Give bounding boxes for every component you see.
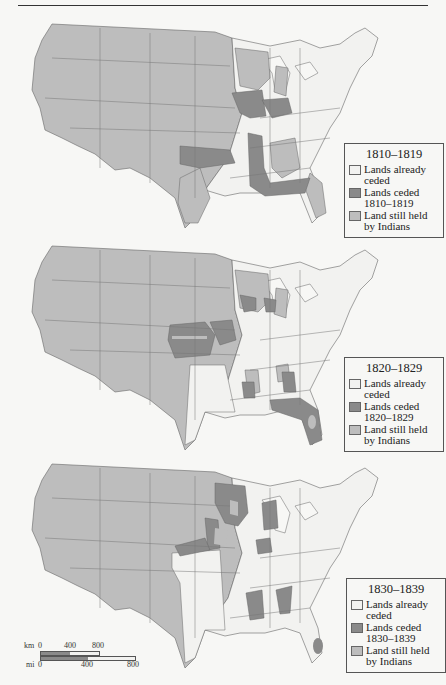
legend-item-already-ceded: Lands already ceded	[349, 164, 439, 186]
scale-mi-tick-0: 0	[38, 660, 42, 669]
swatch-still-held	[351, 646, 363, 656]
map-panel-1830-1839: 1830–1839 Lands already ceded Lands cede…	[0, 458, 446, 685]
legend-item-still-held: Land still held by Indians	[351, 645, 441, 667]
scale-mi-tick-400: 400	[81, 660, 93, 669]
top-rule	[18, 5, 428, 6]
legend-title: 1830–1839	[351, 582, 441, 596]
legend: 1810–1819 Lands already ceded Lands cede…	[344, 143, 444, 238]
legend: 1830–1839 Lands already ceded Lands cede…	[346, 578, 446, 673]
legend-label: Land still held by Indians	[364, 424, 428, 446]
scale-mi-label: mi	[26, 660, 34, 669]
scale-bar: km 0 400 800 mi 0 400 800	[24, 641, 144, 671]
legend-item-still-held: Land still held by Indians	[349, 210, 439, 232]
scale-km-tick-400: 400	[64, 641, 76, 650]
legend-title: 1820–1829	[349, 361, 439, 375]
swatch-still-held	[349, 211, 361, 221]
swatch-already-ceded	[349, 379, 361, 389]
legend-title: 1810–1819	[349, 147, 439, 161]
legend-label: Lands already ceded	[364, 164, 426, 186]
scale-mi-tick-800: 800	[127, 660, 139, 669]
legend-label: Lands already ceded	[366, 599, 428, 621]
swatch-still-held	[349, 425, 361, 435]
legend-item-ceded-in-period: Lands ceded 1830–1839	[351, 622, 441, 644]
legend-label: Land still held by Indians	[366, 645, 430, 667]
swatch-ceded-in-period	[351, 623, 363, 633]
legend-label: Lands ceded 1830–1839	[366, 622, 421, 644]
scale-km-tick-800: 800	[92, 641, 104, 650]
scale-km-label: km	[24, 641, 34, 650]
map-panel-1820-1829: 1820–1829 Lands already ceded Lands cede…	[0, 240, 446, 460]
legend-label: Lands already ceded	[364, 378, 426, 400]
map-panel-1810-1819: 1810–1819 Lands already ceded Lands cede…	[0, 18, 446, 238]
legend-label: Land still held by Indians	[364, 210, 428, 232]
legend-label: Lands ceded 1820–1829	[364, 401, 419, 423]
swatch-ceded-in-period	[349, 402, 361, 412]
legend: 1820–1829 Lands already ceded Lands cede…	[344, 357, 444, 452]
legend-item-ceded-in-period: Lands ceded 1820–1829	[349, 401, 439, 423]
legend-item-already-ceded: Lands already ceded	[351, 599, 441, 621]
scale-km-tick-0: 0	[38, 641, 42, 650]
swatch-already-ceded	[351, 600, 363, 610]
swatch-ceded-in-period	[349, 188, 361, 198]
legend-label: Lands ceded 1810–1819	[364, 187, 419, 209]
legend-item-already-ceded: Lands already ceded	[349, 378, 439, 400]
legend-item-still-held: Land still held by Indians	[349, 424, 439, 446]
legend-item-ceded-in-period: Lands ceded 1810–1819	[349, 187, 439, 209]
swatch-already-ceded	[349, 165, 361, 175]
